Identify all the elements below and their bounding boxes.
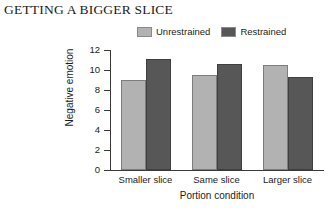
legend-swatch-unrestrained <box>137 27 152 37</box>
bar-unrestrained-larger-slice <box>263 65 288 170</box>
legend-entry-restrained: Restrained <box>221 27 286 37</box>
x-axis-line <box>110 170 324 171</box>
chart-legend: Unrestrained Restrained <box>137 26 286 38</box>
y-tick-label: 12 <box>74 45 100 54</box>
legend-entry-unrestrained: Unrestrained <box>137 27 210 37</box>
bar-chart-figure: GETTING A BIGGER SLICE Unrestrained Rest… <box>0 0 329 210</box>
legend-label-restrained: Restrained <box>240 27 286 37</box>
legend-label-unrestrained: Unrestrained <box>156 27 210 37</box>
bar-restrained-same-slice <box>217 64 242 170</box>
x-axis-title: Portion condition <box>110 190 324 201</box>
x-axis-label-larger-slice: Larger slice <box>252 174 323 185</box>
bar-restrained-larger-slice <box>288 77 313 170</box>
y-tick-label: 10 <box>74 65 100 74</box>
y-tick-label: 8 <box>74 85 100 94</box>
chart-title: GETTING A BIGGER SLICE <box>4 2 173 18</box>
legend-swatch-restrained <box>221 27 236 37</box>
x-axis-label-smaller-slice: Smaller slice <box>110 174 181 185</box>
y-tick-label: 4 <box>74 125 100 134</box>
y-tick-label: 6 <box>74 105 100 114</box>
bar-unrestrained-smaller-slice <box>121 80 146 170</box>
plot-area <box>110 50 323 170</box>
y-axis-title: Negative emotion <box>64 18 75 158</box>
bar-unrestrained-same-slice <box>192 75 217 170</box>
bar-restrained-smaller-slice <box>146 59 171 170</box>
x-axis-label-same-slice: Same slice <box>181 174 252 185</box>
y-tick-label: 0 <box>74 165 100 174</box>
y-tick-label: 2 <box>74 145 100 154</box>
